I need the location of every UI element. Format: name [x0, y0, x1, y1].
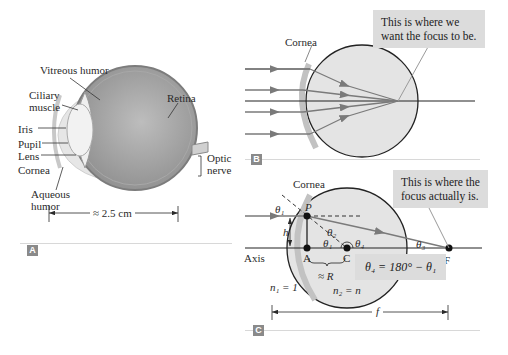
label-optic-line1: Optic — [207, 152, 231, 164]
label-theta4: θ₄ — [355, 237, 364, 249]
label-vitreous-humor: Vitreous humor — [40, 64, 109, 76]
callout-actual-focus: This is where the focus actually is. — [393, 170, 488, 208]
label-pupil: Pupil — [18, 138, 41, 150]
label-height-h: h — [283, 226, 289, 238]
equation-theta4: θ₄ = 180° − θ₁ — [355, 254, 446, 280]
callout-actual-focus-line1: This is where the — [401, 175, 480, 189]
label-lens: Lens — [18, 150, 39, 162]
label-radius: ≈ R — [318, 270, 334, 282]
panel-c-divider — [245, 330, 480, 331]
label-cornea: Cornea — [18, 164, 50, 176]
label-theta1: θ₁ — [275, 203, 284, 215]
panel-a-divider — [20, 243, 232, 244]
label-retina: Retina — [167, 92, 196, 104]
panel-a-badge: A — [27, 245, 38, 256]
label-aqueous-line1: Aqueous — [31, 188, 70, 200]
label-point-a: A — [303, 252, 311, 264]
callout-desired-focus-line2: want the focus to be. — [381, 29, 477, 43]
label-aqueous-line2: humor — [31, 200, 60, 212]
callout-actual-focus-line2: focus actually is. — [401, 189, 480, 203]
label-point-c: C — [343, 252, 350, 264]
panel-c-badge: C — [253, 325, 264, 336]
label-axis: Axis — [244, 252, 265, 264]
label-point-p: P — [305, 201, 312, 213]
label-focal-length: f — [372, 305, 383, 317]
panel-b-badge: B — [251, 154, 262, 165]
callout-desired-focus-line1: This is where we — [381, 15, 477, 29]
panel-b-divider — [245, 159, 480, 160]
label-n2: n₂ = n — [333, 284, 361, 296]
label-ciliary-line2: muscle — [29, 101, 60, 113]
label-n1: n₁ = 1 — [270, 281, 298, 293]
label-cornea-b: Cornea — [285, 36, 317, 48]
label-iris: Iris — [18, 123, 33, 135]
callout-desired-focus: This is where we want the focus to be. — [373, 10, 485, 48]
label-theta3: θ₃ — [416, 238, 425, 250]
label-eye-diameter: ≈ 2.5 cm — [90, 207, 135, 219]
label-cornea-c: Cornea — [293, 178, 325, 190]
label-ciliary-line1: Ciliary — [29, 89, 60, 101]
ideal-focus-diagram — [245, 45, 475, 157]
label-optic-line2: nerve — [207, 164, 231, 176]
label-theta1-interior: θ₁ — [323, 237, 332, 249]
